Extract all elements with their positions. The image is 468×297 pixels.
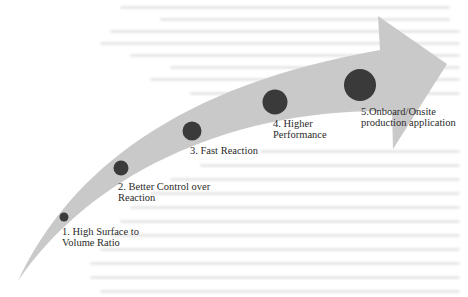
- step-1-label-line1: 1. High Surface to: [62, 226, 139, 237]
- step-2-label-line2: Reaction: [118, 192, 210, 203]
- step-4-circle: [263, 90, 288, 115]
- step-2-label-line1: 2. Better Control over: [118, 181, 210, 192]
- step-3-circle: [183, 122, 202, 141]
- step-4-label-line1: 4. Higher: [273, 118, 327, 129]
- step-5-label-line1: 5.Onboard/Onsite: [361, 106, 456, 117]
- step-4-label: 4. Higher Performance: [273, 118, 327, 140]
- step-4-label-line2: Performance: [273, 129, 327, 140]
- step-1-label: 1. High Surface to Volume Ratio: [62, 226, 139, 248]
- step-5-label-line2: production application: [361, 117, 456, 128]
- step-3-label-line1: 3. Fast Reaction: [190, 145, 258, 156]
- step-2-label: 2. Better Control over Reaction: [118, 181, 210, 203]
- step-3-label: 3. Fast Reaction: [190, 145, 258, 156]
- step-5-circle: [344, 69, 376, 101]
- step-1-label-line2: Volume Ratio: [62, 237, 139, 248]
- step-5-label: 5.Onboard/Onsite production application: [361, 106, 456, 128]
- step-1-circle: [60, 213, 69, 222]
- step-2-circle: [114, 161, 129, 176]
